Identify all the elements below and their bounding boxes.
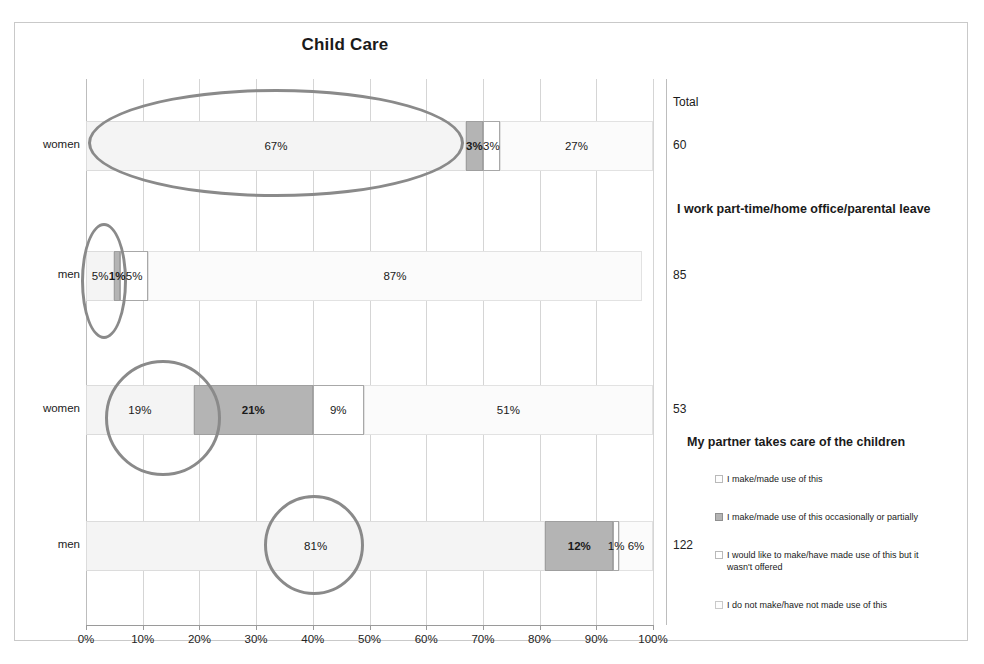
x-tick-20% (199, 625, 200, 630)
group-title-worklife: I work part-time/home office/parental le… (677, 202, 931, 216)
bar-segment-0: 19% (86, 385, 194, 435)
x-tick-label-50%: 50% (358, 633, 381, 645)
x-tick-label-20%: 20% (188, 633, 211, 645)
total-column-header: Total (673, 95, 698, 109)
bar-segment-1: 12% (545, 521, 613, 571)
bar-value-label: 5% (126, 270, 143, 282)
x-tick-label-0%: 0% (78, 633, 95, 645)
bar-value-label: 81% (304, 540, 327, 552)
bar-segment-3: 51% (364, 385, 653, 435)
x-tick-label-10%: 10% (131, 633, 154, 645)
x-tick-label-80%: 80% (528, 633, 551, 645)
legend-swatch-icon-1 (715, 513, 723, 521)
bar-segment-0: 67% (86, 121, 466, 171)
bar-segment-2: 3% (483, 121, 500, 171)
y-axis-label-men-group1: men (20, 538, 80, 550)
x-tick-100% (653, 625, 654, 630)
bar-men-group0: 5%1%5%87% (86, 251, 653, 301)
legend-item-1[interactable]: I make/made use of this occasionally or … (715, 511, 930, 523)
x-tick-90% (596, 625, 597, 630)
total-value-men-group0: 85 (673, 268, 686, 282)
bar-men-group1: 81%12%1%6% (86, 521, 653, 571)
legend-swatch-icon-2 (715, 551, 723, 559)
y-axis-label-women-group1: women (20, 402, 80, 414)
legend-item-3[interactable]: I do not make/have not made use of this (715, 599, 930, 611)
x-tick-50% (370, 625, 371, 630)
bar-women-group1: 19%21%9%51% (86, 385, 653, 435)
legend-label-3: I do not make/have not made use of this (727, 599, 887, 611)
bar-segment-1: 3% (466, 121, 483, 171)
bar-value-label: 67% (264, 140, 287, 152)
bar-segment-0: 81% (86, 521, 545, 571)
bar-value-label: 51% (497, 404, 520, 416)
gridline-100% (653, 79, 654, 625)
x-tick-label-30%: 30% (245, 633, 268, 645)
legend-item-0[interactable]: I make/made use of this (715, 473, 930, 485)
legend-label-1: I make/made use of this occasionally or … (727, 511, 918, 523)
bar-value-label: 5% (92, 270, 109, 282)
bar-segment-3: 87% (148, 251, 641, 301)
bar-value-label: 1% (608, 540, 625, 552)
x-tick-30% (256, 625, 257, 630)
bar-value-label: 3% (483, 140, 500, 152)
bar-value-label: 21% (242, 404, 265, 416)
group-title-partner: My partner takes care of the children (687, 435, 905, 449)
y-axis-label-women-group0: women (20, 138, 80, 150)
x-tick-0% (86, 625, 87, 630)
x-tick-label-100%: 100% (638, 633, 667, 645)
bar-segment-3: 27% (500, 121, 653, 171)
bar-value-label: 1% (109, 270, 126, 282)
chart-frame: Child Care Total I work part-time/home o… (14, 22, 968, 641)
bar-value-label: 9% (330, 404, 347, 416)
x-tick-70% (483, 625, 484, 630)
y-axis-label-men-group0: men (20, 268, 80, 280)
bar-value-label: 6% (628, 540, 645, 552)
bar-value-label: 87% (383, 270, 406, 282)
bar-value-label: 27% (565, 140, 588, 152)
bar-segment-2: 9% (313, 385, 364, 435)
total-value-women-group1: 53 (673, 402, 686, 416)
x-tick-label-40%: 40% (301, 633, 324, 645)
chart-title: Child Care (15, 35, 675, 55)
legend-item-2[interactable]: I would like to make/have made use of th… (715, 549, 930, 573)
x-tick-label-90%: 90% (585, 633, 608, 645)
total-value-women-group0: 60 (673, 138, 686, 152)
x-tick-40% (313, 625, 314, 630)
x-tick-10% (143, 625, 144, 630)
bar-segment-1: 21% (194, 385, 313, 435)
x-tick-80% (540, 625, 541, 630)
x-tick-label-60%: 60% (415, 633, 438, 645)
legend-swatch-icon-3 (715, 601, 723, 609)
plot-right-divider (666, 79, 667, 625)
bar-value-label: 3% (466, 140, 483, 152)
bar-value-label: 19% (128, 404, 151, 416)
total-value-men-group1: 122 (673, 538, 693, 552)
x-tick-label-70%: 70% (471, 633, 494, 645)
legend-label-0: I make/made use of this (727, 473, 823, 485)
bar-women-group0: 67%3%3%27% (86, 121, 653, 171)
bar-value-label: 12% (568, 540, 591, 552)
x-tick-60% (426, 625, 427, 630)
legend-label-2: I would like to make/have made use of th… (727, 549, 930, 573)
legend-swatch-icon-0 (715, 475, 723, 483)
